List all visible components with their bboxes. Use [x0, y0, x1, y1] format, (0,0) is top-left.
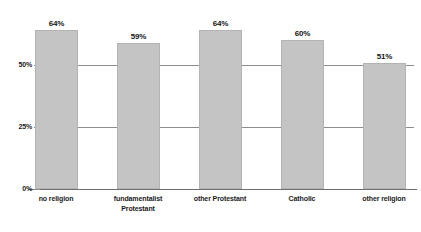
bar-value-label: 60% — [281, 29, 324, 38]
category-label-line: other religion — [336, 194, 421, 204]
bar[interactable] — [35, 30, 78, 189]
x-axis-category-label: other religion — [336, 194, 421, 204]
bar-value-label: 59% — [117, 32, 160, 41]
bar[interactable] — [199, 30, 242, 189]
bar-chart: 50% 25% 0% 64% 59% 64% 60% 51% no religi… — [0, 0, 421, 232]
bar[interactable] — [281, 40, 324, 189]
bar-value-label: 51% — [363, 52, 406, 61]
bar-value-label: 64% — [199, 19, 242, 28]
bar-value-label: 64% — [35, 19, 78, 28]
bar[interactable] — [363, 63, 406, 189]
bar[interactable] — [117, 43, 160, 189]
category-label-line: Protestant — [90, 204, 186, 214]
